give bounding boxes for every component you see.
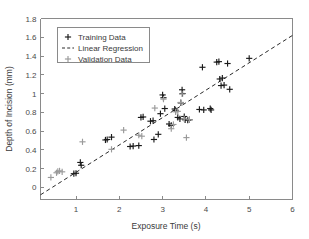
data-point-marker xyxy=(201,107,207,113)
data-point-marker xyxy=(208,107,214,113)
x-tick-label: 5 xyxy=(247,205,252,214)
x-tick-label: 2 xyxy=(117,205,122,214)
legend-item-label: Linear Regression xyxy=(78,44,143,53)
y-tick-label: 1.6 xyxy=(25,33,37,42)
data-point-marker xyxy=(160,92,166,98)
x-axis-ticks: 123456 xyxy=(74,196,295,214)
y-axis-title: Depth of Incision (mm) xyxy=(4,66,14,152)
y-tick-label: 1.4 xyxy=(25,52,37,61)
data-series-group xyxy=(48,55,253,180)
data-point-marker xyxy=(157,111,163,117)
data-point-marker xyxy=(108,146,114,152)
data-point-marker xyxy=(79,139,85,145)
data-point-marker xyxy=(227,86,233,92)
data-point-marker xyxy=(246,55,252,61)
data-point-marker xyxy=(121,127,127,133)
series-training-data xyxy=(71,55,253,177)
x-tick-label: 6 xyxy=(290,205,295,214)
data-point-marker xyxy=(130,143,136,149)
legend-item-label: Validation Data xyxy=(78,55,132,64)
data-point-marker xyxy=(77,159,83,165)
data-point-marker xyxy=(48,174,54,180)
legend-item-label: Training Data xyxy=(78,33,126,42)
data-point-marker xyxy=(162,105,168,111)
data-point-marker xyxy=(179,91,185,97)
y-tick-label: 0.4 xyxy=(25,146,37,155)
legend: Training DataLinear RegressionValidation… xyxy=(58,28,150,65)
series-validation-data xyxy=(48,91,193,181)
x-tick-label: 1 xyxy=(74,205,79,214)
y-tick-label: 0.2 xyxy=(25,165,37,174)
x-tick-label: 4 xyxy=(204,205,209,214)
data-point-marker xyxy=(152,105,158,111)
y-tick-label: 1.2 xyxy=(25,71,37,80)
plot-canvas: 00.20.40.60.811.21.41.61.8 123456 Traini… xyxy=(0,0,309,239)
x-axis-title: Exposure Time (s) xyxy=(132,221,201,231)
y-axis-ticks: 00.20.40.60.811.21.41.61.8 xyxy=(25,15,44,193)
y-tick-label: 0.8 xyxy=(25,108,37,117)
x-tick-label: 3 xyxy=(160,205,165,214)
scatter-plot-figure: 00.20.40.60.811.21.41.61.8 123456 Traini… xyxy=(0,0,309,239)
data-point-marker xyxy=(221,82,227,88)
y-tick-label: 1 xyxy=(32,90,37,99)
data-point-marker xyxy=(160,96,166,102)
data-point-marker xyxy=(183,135,189,141)
data-point-marker xyxy=(136,142,142,148)
data-point-marker xyxy=(136,132,142,138)
y-tick-label: 0.6 xyxy=(25,127,37,136)
data-point-marker xyxy=(199,64,205,70)
data-point-marker xyxy=(224,60,230,66)
data-point-marker xyxy=(139,133,145,139)
data-point-marker xyxy=(207,105,213,111)
data-point-marker xyxy=(155,131,161,137)
y-tick-label: 1.8 xyxy=(25,15,37,24)
data-point-marker xyxy=(151,136,157,142)
y-tick-label: 0 xyxy=(32,183,37,192)
